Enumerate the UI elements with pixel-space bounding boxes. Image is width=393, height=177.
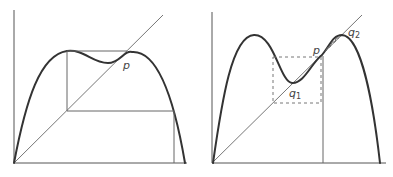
right-panel: p q1 q2 (212, 12, 386, 163)
figure: p p q1 q2 (0, 0, 393, 177)
left-diagonal (14, 15, 163, 163)
left-label-p: p (122, 59, 130, 72)
right-diagonal (212, 15, 362, 163)
left-panel: p (14, 10, 187, 163)
left-map-curve (14, 51, 185, 163)
left-cobweb (67, 51, 174, 163)
right-label-p: p (312, 44, 320, 57)
right-label-q1: q1 (289, 87, 301, 101)
right-label-q2: q2 (348, 26, 360, 40)
